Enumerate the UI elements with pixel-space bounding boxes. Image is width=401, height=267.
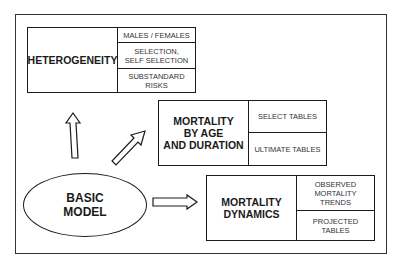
arrow-right-icon [153,195,197,209]
arrows-layer [0,0,401,267]
arrow-up-icon [66,113,80,158]
arrow-up-right-icon [112,131,145,165]
